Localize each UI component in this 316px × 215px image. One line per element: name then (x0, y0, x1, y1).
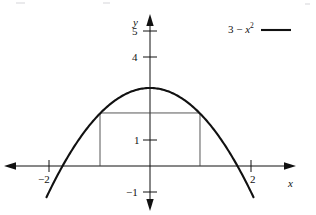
legend-entry-label: 3 − x2 (228, 24, 254, 35)
x-tick-label-minus-2: −2 (38, 174, 50, 185)
figure-canvas: y x 5 4 1 −1 −2 2 3 − x2 (0, 0, 316, 215)
legend-line-sample (260, 26, 292, 34)
y-tick-label-1: 1 (134, 135, 140, 146)
x-tick-label-2: 2 (250, 174, 256, 185)
legend: 3 − x2 (228, 24, 292, 35)
legend-label-exponent: 2 (250, 21, 254, 30)
y-tick-label-4: 4 (132, 52, 138, 63)
y-tick-label-minus-1: −1 (126, 187, 138, 198)
y-axis (146, 14, 153, 211)
legend-label-prefix: 3 − (228, 23, 245, 35)
x-axis-label: x (288, 178, 293, 189)
y-tick-label-5: 5 (132, 26, 138, 37)
